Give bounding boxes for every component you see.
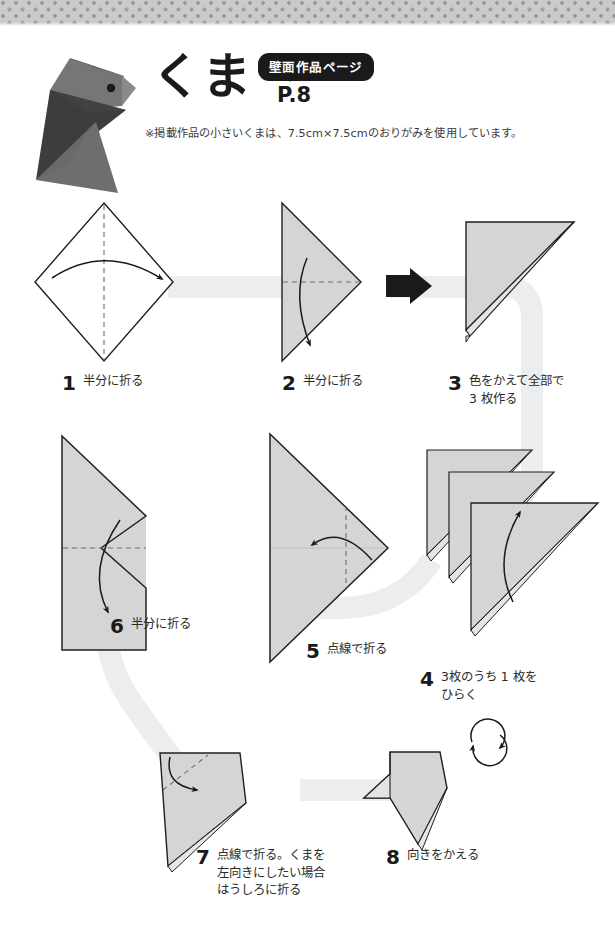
- step-text: 点線で折る: [327, 640, 387, 658]
- step-3-caption: 3 色をかえて全部で 3 枚作る: [448, 372, 564, 407]
- step-text: 点線で折る。くまを 左向きにしたい場合 はうしろに折る: [217, 846, 325, 899]
- wall-display-badge-group: 壁面作品ページ P.8: [258, 53, 393, 81]
- step-4-figure: [427, 450, 598, 636]
- rotate-arrow-icon: [471, 719, 507, 766]
- paper-size-note: ※掲載作品の小さいくまは、7.5cm×7.5cmのおりがみを使用しています。: [145, 124, 522, 140]
- step-3-figure: [466, 222, 574, 342]
- step-4-caption: 4 3枚のうち 1 枚を ひらく: [420, 668, 537, 703]
- step-number: 7: [196, 847, 210, 867]
- status-badge: 壁面作品ページ: [258, 53, 374, 81]
- right-arrow-icon: [386, 268, 432, 304]
- badge-pointer-icon: [285, 74, 295, 82]
- origami-instruction-page: くま 壁面作品ページ P.8 ※掲載作品の小さいくまは、7.5cm×7.5cmの…: [0, 0, 615, 926]
- step-number: 3: [448, 373, 462, 393]
- badge-label: 壁面作品ページ: [269, 60, 363, 75]
- step-8-caption: 8 向きをかえる: [386, 846, 479, 866]
- step-text: 半分に折る: [83, 372, 143, 390]
- step-number: 1: [62, 373, 76, 393]
- dashed-fold-line-icon: [163, 755, 208, 790]
- step-1-figure: [35, 203, 173, 361]
- curved-fold-arrow-icon: [169, 757, 197, 790]
- step-number: 5: [306, 641, 320, 661]
- curved-fold-arrow-icon: [504, 512, 520, 602]
- curved-fold-arrow-icon: [99, 520, 120, 612]
- step-text: 半分に折る: [303, 372, 363, 390]
- step-text: 半分に折る: [131, 615, 191, 633]
- step-8-figure: [364, 719, 507, 850]
- page-reference: P.8: [277, 83, 311, 107]
- step-1-caption: 1 半分に折る: [62, 372, 143, 392]
- step-text: 色をかえて全部で 3 枚作る: [469, 372, 564, 407]
- step-text: 向きをかえる: [407, 846, 479, 864]
- curved-fold-arrow-icon: [300, 258, 310, 345]
- step-text: 3枚のうち 1 枚を ひらく: [441, 668, 537, 703]
- step-number: 4: [420, 669, 434, 689]
- flow-ribbon-icon: [103, 287, 532, 790]
- decorative-dot-band: [0, 0, 615, 26]
- step-5-figure: [270, 434, 388, 662]
- step-2-caption: 2 半分に折る: [282, 372, 363, 392]
- bear-origami-photo: [26, 48, 158, 193]
- step-7-caption: 7 点線で折る。くまを 左向きにしたい場合 はうしろに折る: [196, 846, 325, 899]
- step-number: 8: [386, 847, 400, 867]
- step-5-caption: 5 点線で折る: [306, 640, 387, 660]
- step-2-figure: [282, 203, 361, 361]
- step-number: 6: [110, 616, 124, 636]
- curved-fold-arrow-icon: [52, 261, 162, 279]
- step-number: 2: [282, 373, 296, 393]
- page-title: くま: [152, 52, 252, 101]
- curved-fold-arrow-icon: [312, 537, 372, 560]
- step-6-caption: 6 半分に折る: [110, 615, 191, 635]
